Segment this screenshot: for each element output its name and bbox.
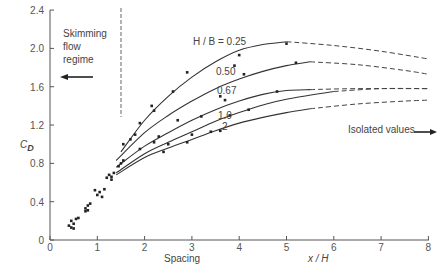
y-axis-label: CD <box>20 139 34 153</box>
data-point <box>87 204 90 207</box>
data-point <box>77 217 80 220</box>
curve-dashed-1.0 <box>334 88 429 91</box>
skimming-label-2: flow <box>63 41 82 52</box>
data-point <box>276 90 279 93</box>
spacing-label: Spacing <box>164 253 200 264</box>
data-point <box>238 54 241 57</box>
data-point <box>89 202 92 205</box>
data-point <box>122 159 125 162</box>
curve-dashed-0.50 <box>310 62 428 74</box>
data-point <box>113 172 116 175</box>
data-point <box>139 122 142 125</box>
svg-text:2.4: 2.4 <box>30 5 44 16</box>
data-point <box>162 151 165 154</box>
data-point <box>139 148 142 151</box>
svg-text:5: 5 <box>284 242 290 253</box>
data-point <box>108 174 111 177</box>
data-point <box>243 73 246 76</box>
data-point <box>68 224 71 227</box>
arrow-right-icon <box>414 129 437 135</box>
data-point <box>285 42 288 45</box>
data-point <box>94 189 97 192</box>
curve-dashed-0.25 <box>287 42 429 59</box>
curve-label-2: 2 <box>222 121 228 132</box>
data-point <box>87 209 90 212</box>
svg-text:1.2: 1.2 <box>30 120 44 131</box>
x-ticks: 012345678 <box>47 236 431 253</box>
data-point <box>167 143 170 146</box>
data-point <box>186 141 189 144</box>
svg-text:8: 8 <box>426 242 432 253</box>
svg-text:6: 6 <box>331 242 337 253</box>
data-point <box>72 222 75 225</box>
data-point <box>72 227 75 230</box>
data-point <box>96 194 99 197</box>
data-point <box>70 226 73 229</box>
svg-text:3: 3 <box>189 242 195 253</box>
data-point <box>295 61 298 64</box>
data-point <box>129 138 132 141</box>
x-axis-label: x / H <box>307 253 329 264</box>
data-point <box>176 119 179 122</box>
svg-text:0: 0 <box>47 242 53 253</box>
curves <box>116 42 428 175</box>
data-point <box>134 133 137 136</box>
data-point <box>84 210 87 213</box>
svg-text:1: 1 <box>95 242 101 253</box>
data-point <box>75 218 78 221</box>
curve-label-1.0: 1.0 <box>218 110 232 121</box>
data-point <box>150 105 153 108</box>
data-point <box>191 133 194 136</box>
data-point <box>210 130 213 133</box>
curve-label-0.67: 0.67 <box>217 85 237 96</box>
data-point <box>200 115 203 118</box>
data-point <box>186 71 189 74</box>
svg-text:7: 7 <box>378 242 384 253</box>
svg-text:2.0: 2.0 <box>30 43 44 54</box>
data-point <box>101 196 104 199</box>
data-point <box>224 99 227 102</box>
data-point <box>122 143 125 146</box>
svg-text:4: 4 <box>236 242 242 253</box>
svg-text:0.4: 0.4 <box>30 197 44 208</box>
arrow-left-icon <box>60 74 93 80</box>
svg-text:2: 2 <box>142 242 148 253</box>
data-point <box>117 165 120 168</box>
svg-text:0.8: 0.8 <box>30 158 44 169</box>
skimming-label-1: Skimming <box>63 28 107 39</box>
data-point <box>247 108 250 111</box>
data-point <box>153 141 156 144</box>
data-point <box>120 162 123 165</box>
data-point <box>105 176 108 179</box>
svg-text:0: 0 <box>38 235 44 246</box>
data-point <box>70 220 73 223</box>
data-point <box>110 175 113 178</box>
data-point <box>157 135 160 138</box>
data-point <box>98 191 101 194</box>
data-point <box>153 109 156 112</box>
data-point <box>103 188 106 191</box>
skimming-label-3: regime <box>63 54 94 65</box>
drag-coefficient-chart: 00.40.81.21.62.02.4 012345678 CD x / H S… <box>0 0 438 268</box>
svg-text:1.6: 1.6 <box>30 82 44 93</box>
curve-label-0.25: H / B = 0.25 <box>193 36 247 47</box>
data-point <box>172 90 175 93</box>
curve-label-0.50: 0.50 <box>216 66 236 77</box>
data-point <box>110 178 113 181</box>
curve-dashed-2 <box>310 100 428 109</box>
data-point <box>84 207 87 210</box>
curve-0.67 <box>116 90 310 168</box>
curve-1.0 <box>116 92 334 173</box>
isolated-values-label: Isolated values <box>348 124 415 135</box>
